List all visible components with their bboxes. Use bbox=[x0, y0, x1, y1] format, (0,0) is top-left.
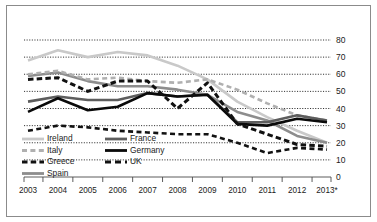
y-tick-40: 40 bbox=[336, 104, 346, 114]
x-tick-label-2008: 2008 bbox=[168, 186, 187, 195]
y-tick-70: 70 bbox=[336, 52, 346, 62]
x-tick-label-2004: 2004 bbox=[49, 186, 68, 195]
legend-label-germany: Germany bbox=[130, 145, 165, 155]
y-tick-60: 60 bbox=[336, 69, 346, 79]
y-tick-10: 10 bbox=[336, 155, 346, 165]
legend-label-ireland: Ireland bbox=[47, 133, 73, 143]
y-tick-0: 0 bbox=[336, 172, 341, 182]
y-axis-tick-labels: 80706050403020100 bbox=[336, 35, 346, 182]
legend-label-italy: Italy bbox=[47, 145, 63, 155]
legend-group: IrelandItalyGreeceSpainFranceGermanyUK bbox=[22, 133, 165, 178]
x-axis-tick-labels: 2003200420052006200720082009201020112012… bbox=[19, 186, 339, 195]
data-series-group bbox=[28, 50, 327, 153]
y-tick-20: 20 bbox=[336, 138, 346, 148]
x-tick-label-2003: 2003 bbox=[19, 186, 38, 195]
series-line-greece bbox=[28, 78, 327, 146]
x-tick-label-2011: 2011 bbox=[258, 186, 276, 195]
line-chart-canvas: 80706050403020100 2003200420052006200720… bbox=[0, 0, 377, 222]
x-tick-label-2007: 2007 bbox=[138, 186, 157, 195]
y-tick-50: 50 bbox=[336, 86, 346, 96]
x-axis-group bbox=[24, 177, 331, 182]
x-tick-label-2013-est: 2013* bbox=[316, 186, 338, 195]
legend-label-spain: Spain bbox=[47, 168, 69, 178]
y-tick-80: 80 bbox=[336, 35, 346, 45]
chart-figure: 80706050403020100 2003200420052006200720… bbox=[0, 0, 377, 222]
y-tick-30: 30 bbox=[336, 121, 346, 131]
x-tick-label-2006: 2006 bbox=[109, 186, 128, 195]
x-tick-label-2009: 2009 bbox=[198, 186, 217, 195]
legend-label-france: France bbox=[130, 133, 156, 143]
series-line-uk bbox=[28, 126, 327, 153]
x-tick-label-2005: 2005 bbox=[79, 186, 98, 195]
x-tick-label-2012: 2012 bbox=[288, 186, 307, 195]
x-tick-label-2010: 2010 bbox=[228, 186, 247, 195]
legend-label-uk: UK bbox=[130, 156, 142, 166]
legend-label-greece: Greece bbox=[47, 156, 75, 166]
